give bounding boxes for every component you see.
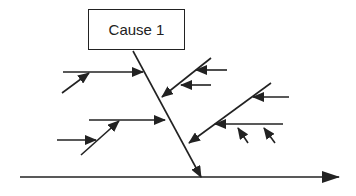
right-lower-sub-sub-arrow-2 bbox=[264, 128, 275, 143]
left-upper-sub-arrow bbox=[62, 73, 89, 93]
right-lower-bone bbox=[189, 83, 271, 143]
right-upper-bone bbox=[162, 58, 211, 97]
right-lower-sub-sub-arrow bbox=[238, 128, 248, 143]
cause-label: Cause 1 bbox=[109, 21, 165, 38]
main-bone-arrow bbox=[133, 51, 201, 177]
cause-box: Cause 1 bbox=[88, 9, 185, 50]
left-lower-sub-arrow bbox=[81, 121, 119, 155]
